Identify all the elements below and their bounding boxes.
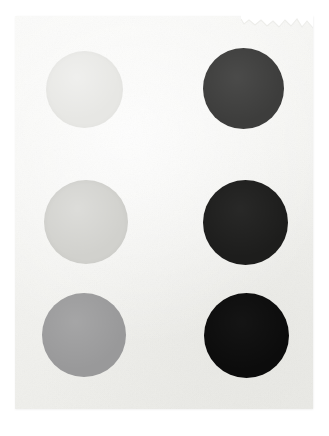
- swatch-circle: [204, 293, 289, 378]
- torn-paper-edge: [241, 15, 313, 31]
- swatch-circle: [203, 180, 288, 265]
- screenshot-canvas: [0, 0, 329, 436]
- medium-gray-circle-bottom-left: [42, 293, 126, 377]
- near-black-circle-bottom-right: [204, 293, 289, 378]
- swatch-circle: [42, 293, 126, 377]
- light-gray-circle-top-left: [46, 51, 123, 128]
- paper-sheet: [15, 16, 313, 409]
- dark-gray-circle-top-right: [203, 48, 284, 129]
- swatch-circle: [44, 180, 128, 264]
- very-dark-gray-circle-middle-right: [203, 180, 288, 265]
- pale-gray-circle-middle-left: [44, 180, 128, 264]
- swatch-circle: [203, 48, 284, 129]
- swatch-circle: [46, 51, 123, 128]
